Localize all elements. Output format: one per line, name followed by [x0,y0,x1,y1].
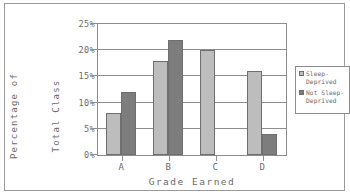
y-axis-tick-mark [91,128,97,129]
legend-item-not-sleep-deprived: Not Sleep-Deprived [298,89,347,104]
bar-series-container [98,24,286,155]
bar-a-series-1 [106,113,121,155]
legend-item-sleep-deprived: Sleep-Deprived [298,70,347,85]
y-axis-labels: 25%20%15%10%5%0% [59,16,95,164]
y-axis-tick-mark [91,75,97,76]
bar-d-series-1 [247,71,262,155]
y-axis-tick-label: 20% [59,46,95,55]
legend-swatch-icon-not-sleep-deprived [299,90,304,95]
chart-frame: Percentage of Total Class 25%20%15%10%5%… [4,3,345,191]
bar-c-series-1 [200,50,215,155]
bar-group [145,24,192,155]
legend-label-sleep-deprived: Sleep-Deprived [306,70,347,85]
bar-d-series-2 [262,134,277,155]
y-axis-tick-label: 5% [59,125,95,134]
y-axis-tick-mark [91,154,97,155]
y-axis-tick-label: 25% [59,20,95,29]
y-axis-tick-label: 0% [59,151,95,160]
y-axis-title-line-1: Percentage of [7,41,21,191]
chart-legend: Sleep-Deprived Not Sleep-Deprived [295,66,350,114]
x-axis-labels: ABCD [97,161,287,175]
x-axis-tick-label-a: A [102,161,142,173]
bar-group [192,24,239,155]
x-axis-tick-label-b: B [149,161,189,173]
bar-b-series-2 [168,40,183,155]
bar-group [239,24,286,155]
y-axis-tick-mark [91,102,97,103]
legend-label-not-sleep-deprived: Not Sleep-Deprived [306,89,347,104]
legend-swatch-icon-sleep-deprived [299,71,304,76]
y-axis-tick-mark [91,49,97,50]
y-axis-tick-label: 15% [59,72,95,81]
y-axis-tick-mark [91,23,97,24]
bar-group [98,24,145,155]
y-axis-tick-label: 10% [59,99,95,108]
x-axis-tick-label-d: D [243,161,283,173]
bar-b-series-1 [153,61,168,155]
x-axis-title: Grade Earned [97,176,287,187]
x-axis-tick-label-c: C [196,161,236,173]
bar-a-series-2 [121,92,136,155]
